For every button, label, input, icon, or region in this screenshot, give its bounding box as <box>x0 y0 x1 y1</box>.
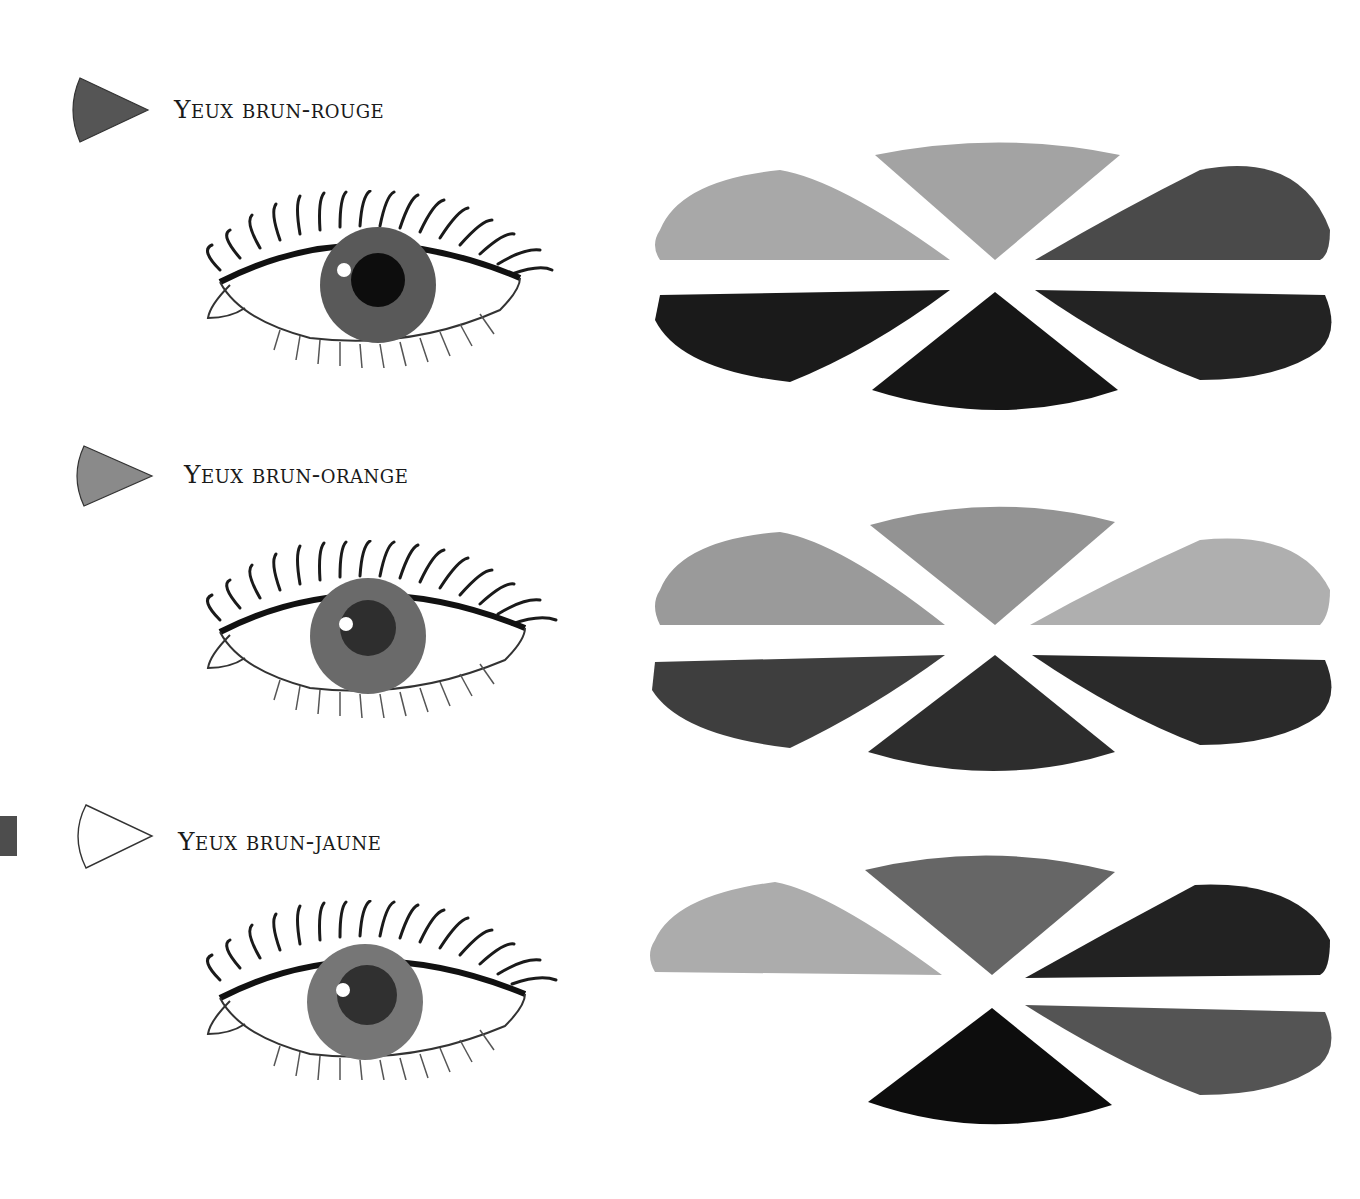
eyeshadow-palette <box>640 840 1340 1140</box>
wedge-marker-icon <box>68 70 158 150</box>
eye-illustration <box>200 540 570 720</box>
eyeshadow-palette <box>640 130 1340 430</box>
eye-illustration <box>200 900 570 1080</box>
eye-illustration <box>200 190 560 370</box>
wedge-marker-outline-icon <box>68 800 158 880</box>
wedge-marker-icon <box>72 438 162 518</box>
highlight <box>337 263 351 277</box>
edge-color-swatch <box>0 816 17 856</box>
section-title: Yeux brun-jaune <box>178 827 382 856</box>
eyeshadow-palette <box>640 490 1340 790</box>
section-title: Yeux brun-rouge <box>174 95 384 124</box>
section-title: Yeux brun-orange <box>184 460 408 489</box>
pupil <box>351 253 405 307</box>
swatch-top-left <box>655 170 950 260</box>
